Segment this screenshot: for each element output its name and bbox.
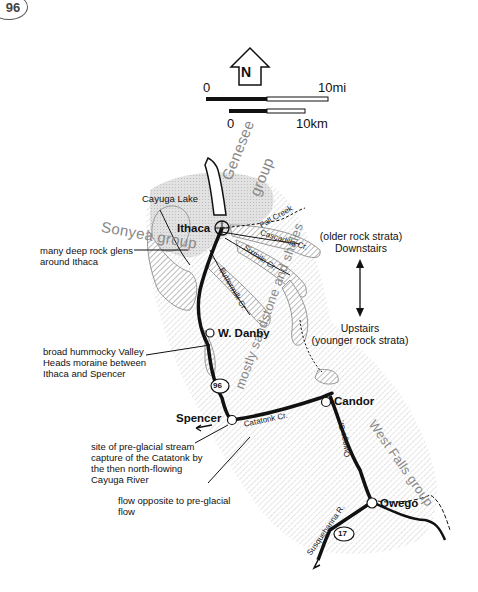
scale-bar-km (229, 109, 305, 113)
callout-rock-glens: many deep rock glens around Ithaca (40, 245, 133, 267)
strata-downstairs-legend: (older rock strata) Downstairs (306, 230, 416, 254)
callout-stream-capture: site of pre-glacial stream capture of th… (91, 441, 202, 485)
north-label: N (241, 64, 251, 80)
town-ithaca: Ithaca (177, 222, 210, 234)
downstairs-text: Downstairs (306, 242, 416, 254)
scale-bar-miles (206, 97, 328, 101)
callout-reverse-flow: flow opposite to pre-glacial flow (118, 495, 230, 517)
town-owego: Owego (380, 497, 418, 509)
scale-km-end: 10km (296, 116, 328, 131)
scale-miles-unit: mi (332, 80, 346, 95)
younger-strata-text: (younger rock strata) (298, 334, 422, 346)
callout-moraine: broad hummocky Valley Heads moraine betw… (43, 346, 146, 379)
route-17-number: 17 (338, 529, 347, 538)
town-spencer: Spencer (176, 412, 221, 424)
candor-marker (322, 398, 331, 407)
cayuga-lake-label: Cayuga Lake (142, 193, 198, 204)
flow-arrow-icon (314, 560, 320, 568)
w-danby-marker (206, 329, 214, 337)
town-candor: Candor (334, 395, 374, 407)
scale-km-unit: km (310, 116, 327, 131)
town-w-danby: W. Danby (218, 327, 270, 339)
upstairs-text: Upstairs (298, 322, 422, 334)
scale-miles-end: 10mi (318, 80, 346, 95)
owego-marker (367, 498, 377, 508)
scale-miles-start: 0 (203, 80, 210, 95)
scale-km-start: 0 (227, 116, 234, 131)
strata-arrow-icon (356, 259, 364, 317)
spencer-marker (228, 416, 237, 425)
strata-upstairs-legend: Upstairs (younger rock strata) (298, 322, 422, 346)
older-strata-text: (older rock strata) (306, 230, 416, 242)
route-96-number: 96 (213, 381, 222, 390)
